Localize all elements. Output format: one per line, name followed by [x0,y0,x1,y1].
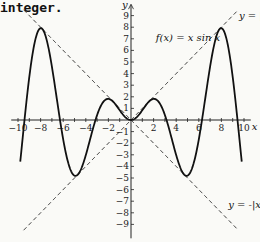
function-plot: −10−8−6−4−2246810−9−8−7−6−5−4−3−2−112345… [0,0,260,242]
y-tick-label: −3 [116,150,130,160]
y-tick-label: −7 [116,196,130,206]
y-tick-label: 2 [123,92,129,102]
x-tick-label: −8 [34,123,48,133]
y-tick-label: 9 [123,11,129,21]
x-tick-label: −6 [57,123,71,133]
y-tick-label: 7 [123,34,129,44]
y-tick-label: 8 [123,22,129,32]
x-tick-label: 4 [173,123,179,133]
x-tick-label: −4 [79,123,93,133]
label-f: f(x) = x sin x [155,32,221,43]
x-tick-label: 8 [219,123,225,133]
y-tick-label: 3 [123,80,129,90]
y-tick-label: −6 [116,185,130,195]
y-tick-label: 1 [123,103,129,113]
y-tick-label: −2 [116,138,129,148]
y-tick-label: 4 [123,69,129,79]
x-tick-label: 10 [238,123,250,133]
label-abs: y = |x| [238,10,260,22]
y-tick-label: 6 [123,45,129,55]
label-negabs: y = -|x [227,199,260,211]
y-tick-label: −1 [116,127,129,137]
y-tick-label: 5 [123,57,129,67]
y-tick-label: −4 [116,161,130,171]
x-tick-label: −2 [102,123,115,133]
x-tick-label: 2 [151,123,157,133]
y-tick-label: −5 [116,173,130,183]
x-axis-label: x [252,121,258,132]
y-tick-label: −8 [116,208,130,218]
y-axis-label: y [121,0,128,10]
y-tick-label: −9 [116,219,130,229]
